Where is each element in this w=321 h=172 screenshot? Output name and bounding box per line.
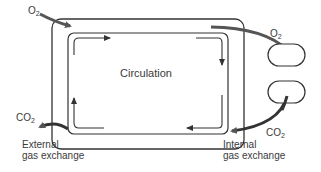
circulation-label: Circulation [120,68,172,79]
internal-label-line2: gas exchange [223,150,285,161]
co2-exhale-arrow [40,124,68,129]
circulation-loop-inner [74,38,222,128]
external-label-line1: External [22,139,84,150]
internal-gas-exchange-label: Internal gas exchange [223,139,285,161]
circulation-loop-outer [68,33,228,134]
co2-left-label: CO2 [16,112,35,123]
o2-right-label: O2 [270,28,282,39]
o2-intake-arrow [40,14,70,26]
tissue-cell-top [268,44,305,66]
internal-label-line1: Internal [223,139,285,150]
external-label-line2: gas exchange [22,150,84,161]
external-gas-exchange-label: External gas exchange [22,139,84,161]
o2-left-label: O2 [28,5,40,16]
co2-right-label: CO2 [266,127,285,138]
